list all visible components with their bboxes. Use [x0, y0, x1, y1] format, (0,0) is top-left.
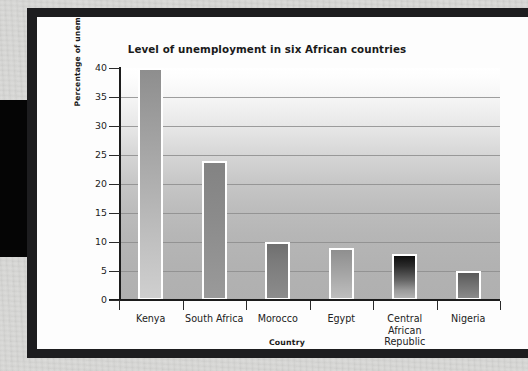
- x-axis-category-label: Nigeria: [431, 313, 507, 325]
- x-axis-category-label-line: Republic: [367, 336, 443, 348]
- page-background: Level of unemployment in six African cou…: [0, 0, 528, 371]
- left-margin-black-block: [0, 100, 30, 257]
- gridline: [119, 242, 500, 243]
- gridline: [119, 271, 500, 272]
- gridline: [119, 213, 500, 214]
- y-axis-tick: [109, 155, 120, 156]
- y-axis-title: Percentage of unemployed: [73, 17, 82, 117]
- chart-frame: Level of unemployment in six African cou…: [27, 8, 528, 358]
- bar: [392, 254, 417, 300]
- gridline: [119, 97, 500, 98]
- y-axis-tick: [109, 68, 120, 69]
- y-axis-tick: [109, 242, 120, 243]
- bar: [456, 271, 481, 300]
- x-axis-tick: [437, 301, 438, 310]
- y-axis-tick-label: 15: [85, 207, 107, 218]
- y-axis-tick: [109, 184, 120, 185]
- x-axis-line: [109, 299, 500, 301]
- y-axis-tick: [109, 97, 120, 98]
- gridline: [119, 155, 500, 156]
- y-axis-tick: [109, 126, 120, 127]
- bar: [202, 161, 227, 300]
- x-axis-tick: [183, 301, 184, 310]
- y-axis-tick-label: 0: [85, 294, 107, 305]
- x-axis-category-label-line: Nigeria: [431, 313, 507, 325]
- x-axis-tick: [119, 301, 120, 310]
- chart-title: Level of unemployment in six African cou…: [37, 43, 497, 55]
- x-axis-tick: [310, 301, 311, 310]
- y-axis-tick-label: 20: [85, 178, 107, 189]
- y-axis-tick-label: 5: [85, 265, 107, 276]
- chart-figure: Level of unemployment in six African cou…: [37, 17, 528, 349]
- bar: [329, 248, 354, 300]
- x-axis-tick: [373, 301, 374, 310]
- y-axis-tick-label: 35: [85, 91, 107, 102]
- plot-area: [119, 68, 500, 300]
- gridline: [119, 126, 500, 127]
- y-axis-tick-label: 40: [85, 62, 107, 73]
- x-axis-title: Country: [227, 338, 347, 347]
- y-axis-tick-label: 30: [85, 120, 107, 131]
- x-axis-tick: [246, 301, 247, 310]
- y-axis-tick-label: 10: [85, 236, 107, 247]
- y-axis-tick: [109, 213, 120, 214]
- y-axis-tick: [109, 271, 120, 272]
- x-axis-tick: [500, 301, 501, 310]
- bar: [138, 68, 163, 300]
- gridline: [119, 184, 500, 185]
- y-axis-tick-label: 25: [85, 149, 107, 160]
- x-axis-category-label-line: African: [367, 325, 443, 337]
- bar: [265, 242, 290, 300]
